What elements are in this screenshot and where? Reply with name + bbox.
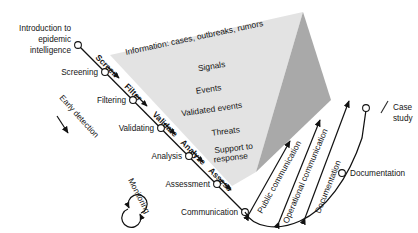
annotation-early-detection-label: Early detection xyxy=(58,93,101,140)
annotation-early-detection: Early detection xyxy=(57,93,101,140)
label-analysis: Analysis xyxy=(152,152,183,161)
label-introduction-line2: epidemic xyxy=(38,35,71,44)
label-case-study-line1: Case xyxy=(393,103,413,112)
node-intro[interactable] xyxy=(75,42,82,49)
diagram-canvas: Information: cases, outbreaks, rumors Si… xyxy=(0,0,418,233)
label-documentation: Documentation xyxy=(350,169,406,178)
annotation-monitoring-label: Monitoring xyxy=(126,177,152,216)
label-introduction: Introduction to epidemic intelligence xyxy=(19,24,71,55)
monitoring-cycle-arrow-top xyxy=(122,209,141,227)
label-introduction-line1: Introduction to xyxy=(19,24,71,33)
node-case-study[interactable] xyxy=(363,105,370,112)
annotation-monitoring: Monitoring xyxy=(122,177,152,228)
epidemic-intelligence-diagram: Information: cases, outbreaks, rumors Si… xyxy=(0,0,418,233)
label-assessment: Assessment xyxy=(165,180,210,189)
label-filtering: Filtering xyxy=(97,96,127,105)
node-documentation[interactable] xyxy=(339,170,346,177)
label-validating: Validating xyxy=(119,124,155,133)
label-introduction-line3: intelligence xyxy=(30,46,71,55)
label-communication: Communication xyxy=(181,208,238,217)
early-detection-arrow xyxy=(57,116,68,133)
label-screening: Screening xyxy=(61,68,98,77)
label-case-study-line2: study xyxy=(393,114,413,123)
case-study-tick-icon xyxy=(381,101,388,113)
